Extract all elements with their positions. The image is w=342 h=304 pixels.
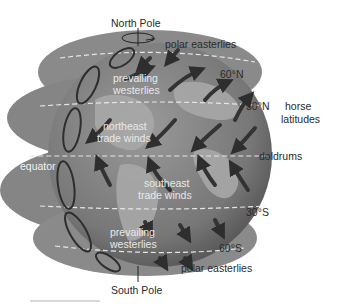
latitude-60s-label: 60°S: [219, 242, 242, 254]
horse-latitudes-label-2: latitudes: [281, 113, 320, 125]
latitude-60n-label: 60°N: [220, 68, 243, 80]
northeast-trade-label-2: trade winds: [97, 132, 151, 144]
southeast-trade-label-2: trade winds: [138, 189, 192, 201]
westerlies-north-label-2: westerlies: [113, 84, 160, 96]
latitude-30n-label: 30°N: [246, 100, 269, 112]
polar-easterlies-south-label: polar easterlies: [181, 262, 252, 274]
north-pole-label: North Pole: [111, 17, 161, 29]
horse-latitudes-label-1: horse: [285, 100, 311, 112]
southeast-trade-label-1: southeast: [144, 177, 190, 189]
doldrums-label: doldrums: [259, 150, 302, 162]
westerlies-north-label-1: prevailing: [113, 72, 158, 84]
northeast-trade-label-1: northeast: [103, 120, 147, 132]
westerlies-south-label-1: prevailing: [110, 226, 155, 238]
divider-line: [30, 300, 100, 302]
equator-label: equator: [20, 160, 56, 172]
south-pole-label: South Pole: [111, 284, 162, 296]
latitude-30s-label: 30°S: [246, 206, 269, 218]
polar-easterlies-north-label: polar easterlies: [165, 38, 236, 50]
westerlies-south-label-2: westerlies: [110, 238, 157, 250]
